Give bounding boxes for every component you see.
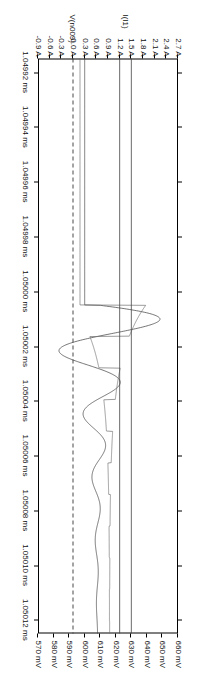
- tick-label-voltage: 650 mV: [158, 640, 167, 668]
- tick-mark-voltage: [161, 633, 162, 637]
- tick-label-current: 1.8 A: [139, 30, 148, 56]
- tick-mark-time: [178, 126, 182, 127]
- tick-label-current: 0.6 A: [92, 30, 101, 56]
- tick-label-voltage: 630 mV: [127, 640, 136, 668]
- waveform-traces: [38, 58, 178, 633]
- tick-label-time: 1.04992 ms: [21, 51, 30, 93]
- tick-mark-voltage: [130, 633, 131, 637]
- tick-mark-time: [178, 346, 182, 347]
- tick-label-time: 1.05004 ms: [21, 379, 30, 421]
- tick-label-time: 1.05006 ms: [21, 434, 30, 476]
- axis-title-current: I(I1): [121, 14, 130, 28]
- tick-label-current: 0.0 A: [69, 30, 78, 56]
- tick-label-time: 1.04998 ms: [21, 215, 30, 257]
- tick-mark-voltage: [68, 633, 69, 637]
- tick-label-current: 2.7 A: [174, 30, 183, 56]
- tick-mark-time: [178, 236, 182, 237]
- tick-mark-voltage: [84, 633, 85, 637]
- tick-mark-voltage: [99, 633, 100, 637]
- tick-mark-voltage: [37, 633, 38, 637]
- tick-label-time: 1.05012 ms: [21, 598, 30, 640]
- tick-label-current: 2.4 A: [162, 30, 171, 56]
- tick-mark-time: [178, 455, 182, 456]
- tick-label-current: 1.5 A: [127, 30, 136, 56]
- tick-label-time: 1.04994 ms: [21, 106, 30, 148]
- tick-mark-voltage: [115, 633, 116, 637]
- tick-label-voltage: 660 mV: [174, 640, 183, 668]
- tick-mark-voltage: [146, 633, 147, 637]
- tick-mark-time: [178, 291, 182, 292]
- tick-label-time: 1.05010 ms: [21, 544, 30, 586]
- trace-voltage: [80, 58, 146, 633]
- chart-rotated-canvas: I(I1) V(n009) 2.7 A2.4 A2.1 A1.8 A1.5 A1…: [0, 0, 200, 685]
- tick-mark-time: [178, 72, 182, 73]
- tick-mark-time: [178, 510, 182, 511]
- tick-label-voltage: 640 mV: [143, 640, 152, 668]
- tick-mark-time: [178, 619, 182, 620]
- tick-label-current: 0.3 A: [81, 30, 90, 56]
- tick-label-current: 2.1 A: [151, 30, 160, 56]
- tick-mark-time: [178, 181, 182, 182]
- tick-label-time: 1.05000 ms: [21, 270, 30, 312]
- tick-label-voltage: 570 mV: [34, 640, 43, 668]
- tick-label-current: -0.9 A: [34, 30, 43, 56]
- tick-label-current: -0.3 A: [57, 30, 66, 56]
- chart-root: I(I1) V(n009) 2.7 A2.4 A2.1 A1.8 A1.5 A1…: [0, 0, 200, 685]
- tick-label-time: 1.05002 ms: [21, 325, 30, 367]
- tick-label-time: 1.04996 ms: [21, 160, 30, 202]
- tick-label-voltage: 600 mV: [81, 640, 90, 668]
- tick-mark-time: [178, 400, 182, 401]
- tick-label-current: 1.2 A: [116, 30, 125, 56]
- tick-label-voltage: 620 mV: [112, 640, 121, 668]
- tick-mark-time: [178, 565, 182, 566]
- tick-label-current: 0.9 A: [104, 30, 113, 56]
- tick-label-time: 1.05008 ms: [21, 489, 30, 531]
- plot-area-wrapper: I(I1) V(n009) 2.7 A2.4 A2.1 A1.8 A1.5 A1…: [0, 0, 200, 685]
- tick-label-voltage: 580 mV: [50, 640, 59, 668]
- tick-mark-voltage: [177, 633, 178, 637]
- tick-label-voltage: 590 mV: [65, 640, 74, 668]
- tick-label-current: -0.6 A: [46, 30, 55, 56]
- tick-mark-voltage: [53, 633, 54, 637]
- tick-label-voltage: 610 mV: [96, 640, 105, 668]
